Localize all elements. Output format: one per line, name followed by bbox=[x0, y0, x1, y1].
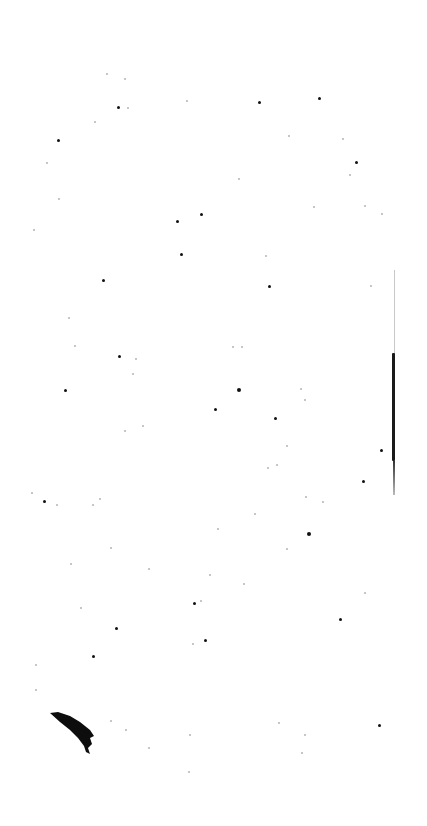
speck bbox=[118, 355, 121, 358]
speck bbox=[254, 513, 256, 515]
speck bbox=[176, 220, 179, 223]
speck bbox=[110, 720, 112, 722]
speck bbox=[148, 747, 150, 749]
speck bbox=[300, 388, 302, 390]
speck bbox=[68, 317, 70, 319]
speck bbox=[339, 618, 342, 621]
speck bbox=[258, 101, 261, 104]
curved-blob-mark bbox=[48, 710, 98, 756]
speck bbox=[124, 78, 126, 80]
speck bbox=[94, 121, 96, 123]
speck bbox=[192, 643, 194, 645]
speck bbox=[313, 206, 315, 208]
speck bbox=[117, 106, 120, 109]
speck bbox=[355, 161, 358, 164]
speck bbox=[58, 198, 60, 200]
speck bbox=[217, 528, 219, 530]
speck bbox=[92, 504, 94, 506]
speck bbox=[378, 724, 381, 727]
speck bbox=[380, 449, 383, 452]
speck bbox=[204, 639, 207, 642]
speck bbox=[127, 107, 129, 109]
speck bbox=[33, 229, 35, 231]
speck bbox=[43, 500, 46, 503]
speck bbox=[288, 135, 290, 137]
speck bbox=[188, 771, 190, 773]
speck bbox=[267, 467, 269, 469]
speck bbox=[31, 492, 33, 494]
speck bbox=[237, 388, 241, 392]
speck bbox=[57, 139, 60, 142]
speck bbox=[276, 464, 278, 466]
speck bbox=[274, 417, 277, 420]
speck bbox=[56, 504, 58, 506]
speck bbox=[268, 285, 271, 288]
speck bbox=[135, 358, 137, 360]
speck bbox=[304, 734, 306, 736]
speck bbox=[307, 532, 311, 536]
speck bbox=[238, 178, 240, 180]
speck bbox=[92, 655, 95, 658]
speck bbox=[148, 568, 150, 570]
speck bbox=[115, 627, 118, 630]
speck bbox=[265, 255, 267, 257]
speck bbox=[364, 592, 366, 594]
speck bbox=[99, 498, 101, 500]
speck bbox=[232, 346, 234, 348]
speck bbox=[370, 285, 372, 287]
speck bbox=[214, 408, 217, 411]
speck bbox=[318, 97, 321, 100]
speck bbox=[322, 501, 324, 503]
speck bbox=[102, 279, 105, 282]
speck bbox=[106, 73, 108, 75]
speck bbox=[305, 496, 307, 498]
speck bbox=[241, 346, 243, 348]
speck bbox=[80, 607, 82, 609]
speck bbox=[286, 445, 288, 447]
speck bbox=[74, 345, 76, 347]
speck bbox=[64, 389, 67, 392]
speck bbox=[124, 430, 126, 432]
speck bbox=[70, 563, 72, 565]
speck bbox=[200, 213, 203, 216]
speck bbox=[110, 547, 112, 549]
vertical-line-dark-segment bbox=[392, 353, 395, 461]
speck bbox=[209, 574, 211, 576]
speck bbox=[304, 399, 306, 401]
speck bbox=[125, 729, 127, 731]
speck bbox=[243, 583, 245, 585]
speck bbox=[193, 602, 196, 605]
speck bbox=[278, 722, 280, 724]
speck bbox=[180, 253, 183, 256]
speck bbox=[132, 373, 134, 375]
speck bbox=[349, 174, 351, 176]
speck bbox=[186, 100, 188, 102]
speck bbox=[301, 752, 303, 754]
speck bbox=[142, 425, 144, 427]
speck bbox=[362, 480, 365, 483]
speck bbox=[189, 734, 191, 736]
speck bbox=[35, 689, 37, 691]
speck bbox=[342, 138, 344, 140]
speck bbox=[364, 205, 366, 207]
speck bbox=[35, 664, 37, 666]
speck bbox=[46, 162, 48, 164]
speck bbox=[286, 548, 288, 550]
speck bbox=[200, 600, 202, 602]
speck bbox=[381, 213, 383, 215]
vertical-line-tail bbox=[393, 461, 395, 495]
